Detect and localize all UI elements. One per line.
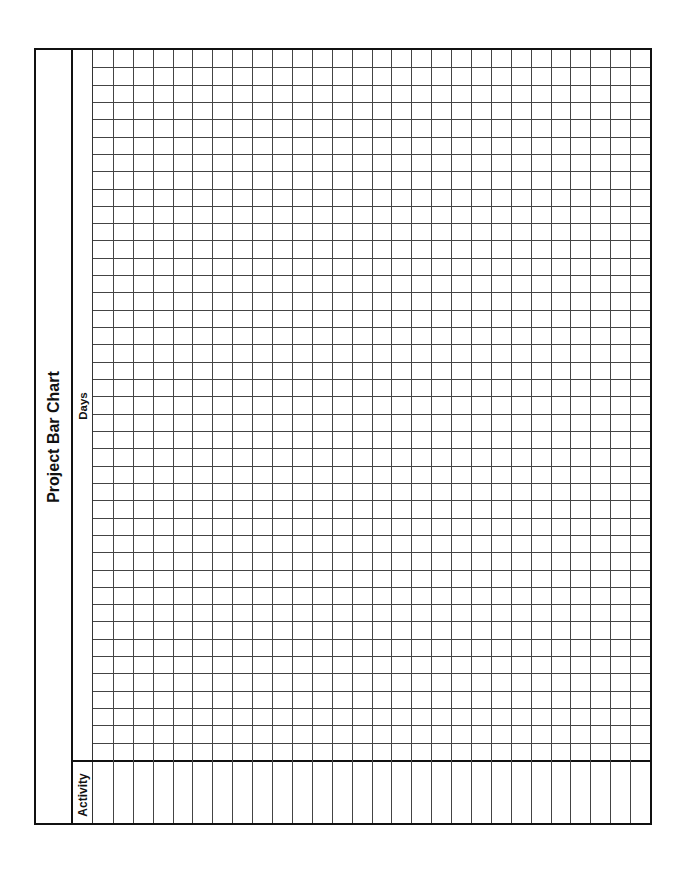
grid-column-line [212, 50, 213, 823]
grid-row-line [93, 206, 650, 207]
grid-column-line [352, 50, 353, 823]
chart-title: Project Bar Chart [45, 371, 63, 503]
header-column: Days Activity [73, 50, 93, 823]
grid-row-line [93, 223, 650, 224]
grid-column-line [491, 50, 492, 823]
activity-label: Activity [76, 773, 90, 816]
grid-row-line [93, 500, 650, 501]
grid-row-line [93, 518, 650, 519]
schedule-grid [93, 50, 650, 823]
grid-row-line [93, 448, 650, 449]
grid-row-line [93, 344, 650, 345]
grid-row-line [93, 85, 650, 86]
grid-row-line [93, 292, 650, 293]
grid-column-line [551, 50, 552, 823]
grid-column-line [252, 50, 253, 823]
grid-row-line [93, 379, 650, 380]
grid-row-line [93, 102, 650, 103]
grid-row-line [93, 673, 650, 674]
grid-row-line [93, 535, 650, 536]
grid-column-line [133, 50, 134, 823]
grid-row-line [93, 656, 650, 657]
grid-column-line [272, 50, 273, 823]
grid-row-line [93, 396, 650, 397]
grid-column-line [312, 50, 313, 823]
grid-row-line [93, 414, 650, 415]
grid-row-line [93, 639, 650, 640]
grid-column-line [411, 50, 412, 823]
grid-row-line [93, 154, 650, 155]
grid-column-line [153, 50, 154, 823]
grid-row-line [93, 621, 650, 622]
title-column: Project Bar Chart [36, 50, 73, 823]
grid-row-line [93, 240, 650, 241]
grid-column-line [630, 50, 631, 823]
grid-column-line [590, 50, 591, 823]
grid-row-line [93, 691, 650, 692]
grid-row-line [93, 466, 650, 467]
grid-row-line [93, 604, 650, 605]
grid-row-line [93, 431, 650, 432]
grid-row-line [93, 483, 650, 484]
grid-row-line [93, 137, 650, 138]
grid-row-line [93, 743, 650, 744]
grid-row-line [93, 552, 650, 553]
grid-column-line [232, 50, 233, 823]
grid-column-line [113, 50, 114, 823]
grid-column-line [391, 50, 392, 823]
grid-row-line [93, 362, 650, 363]
grid-column-line [173, 50, 174, 823]
grid-column-line [431, 50, 432, 823]
grid-column-line [451, 50, 452, 823]
grid-column-line [511, 50, 512, 823]
grid-row-line [93, 327, 650, 328]
grid-row-line [93, 275, 650, 276]
grid-row-line [93, 171, 650, 172]
grid-row-line [93, 725, 650, 726]
grid-column-line [292, 50, 293, 823]
grid-row-line [93, 119, 650, 120]
grid-column-line [471, 50, 472, 823]
grid-column-line [610, 50, 611, 823]
grid-column-line [372, 50, 373, 823]
grid-column-line [570, 50, 571, 823]
grid-row-line [93, 189, 650, 190]
grid-row-line [93, 570, 650, 571]
days-label: Days [77, 392, 89, 420]
grid-row-line [93, 258, 650, 259]
project-bar-chart-sheet: Project Bar Chart Days Activity [34, 48, 652, 825]
grid-row-line [93, 67, 650, 68]
grid-row-line [93, 708, 650, 709]
grid-row-line [93, 587, 650, 588]
grid-column-line [332, 50, 333, 823]
grid-row-line [93, 310, 650, 311]
grid-column-line [192, 50, 193, 823]
grid-column-line [531, 50, 532, 823]
